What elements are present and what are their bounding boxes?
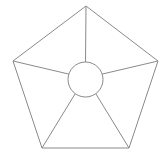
spoke-to-top — [86, 6, 87, 62]
spoke-to-bottom-right — [96, 94, 129, 148]
spoke-to-bottom-left — [42, 94, 75, 148]
spoke-to-left — [13, 61, 69, 74]
center-circle — [68, 62, 103, 97]
spoke-to-right — [102, 61, 158, 74]
pentagon-wheel-diagram — [0, 0, 167, 161]
diagram-canvas: Line drawing of a regular pentagon with … — [0, 0, 167, 161]
